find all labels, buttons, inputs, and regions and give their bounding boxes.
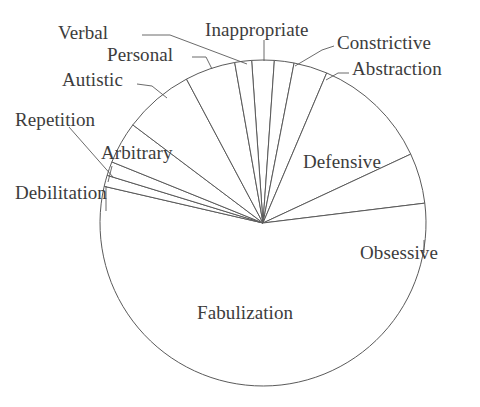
pie-label-abstraction: Abstraction (352, 59, 442, 78)
pie-chart: Verbal Inappropriate Constrictive Person… (0, 0, 480, 407)
pie-label-constrictive: Constrictive (337, 33, 431, 52)
pie-slices-group (100, 60, 426, 386)
pie-label-obsessive: Obsessive (360, 243, 438, 262)
pie-label-personal: Personal (107, 45, 173, 64)
pie-label-autistic: Autistic (62, 70, 123, 89)
pie-label-inappropriate: Inappropriate (205, 20, 309, 39)
pie-label-arbitrary: Arbitrary (101, 143, 173, 162)
pie-label-repetition: Repetition (15, 110, 95, 129)
leader-line-constrictive (295, 46, 334, 66)
pie-label-fabulization: Fabulization (197, 303, 293, 322)
leader-line-personal (192, 57, 212, 69)
pie-label-debilitation: Debilitation (15, 183, 107, 202)
pie-label-verbal: Verbal (58, 23, 108, 42)
pie-label-defensive: Defensive (303, 152, 381, 171)
